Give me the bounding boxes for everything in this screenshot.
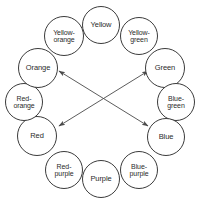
color-node-yellow[interactable]: Yellow [82, 6, 120, 44]
color-node-label: Blue-green [166, 95, 185, 110]
color-node-red[interactable]: Red [17, 116, 57, 156]
color-node-purple[interactable]: Purple [82, 160, 120, 198]
color-node-label: Orange [25, 64, 51, 72]
color-node-label: Red-purple [54, 163, 75, 178]
color-node-blue[interactable]: Blue [147, 118, 185, 156]
color-node-label: Purple [89, 175, 112, 183]
color-node-yellow-green[interactable]: Yellow-green [120, 17, 158, 55]
color-node-label: Blue [158, 133, 175, 141]
color-node-blue-purple[interactable]: Blue-purple [120, 151, 158, 189]
color-node-label: Red-orange [12, 95, 35, 110]
color-node-label: Red [29, 132, 44, 140]
color-wheel-diagram: YellowYellow-greenGreenBlue-greenBlueBlu… [0, 0, 198, 204]
color-node-label: Yellow-orange [52, 29, 76, 44]
color-node-blue-green[interactable]: Blue-green [157, 83, 195, 121]
color-node-label: Yellow-green [127, 29, 151, 44]
color-node-yellow-orange[interactable]: Yellow-orange [44, 16, 84, 56]
color-node-label: Blue-purple [129, 163, 150, 178]
color-node-red-orange[interactable]: Red-orange [5, 83, 43, 121]
color-node-green[interactable]: Green [145, 48, 185, 88]
color-node-label: Green [154, 64, 176, 72]
color-node-orange[interactable]: Orange [18, 48, 58, 88]
color-node-red-purple[interactable]: Red-purple [45, 151, 83, 189]
color-node-label: Yellow [90, 21, 113, 29]
